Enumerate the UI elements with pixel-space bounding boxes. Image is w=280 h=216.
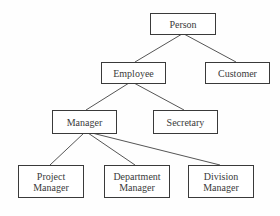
node-secretary: Secretary bbox=[153, 110, 218, 134]
node-manager-label: Manager bbox=[67, 117, 103, 128]
node-employee-label: Employee bbox=[113, 68, 154, 79]
edge-employee-secretary bbox=[134, 83, 184, 110]
node-secretary-label: Secretary bbox=[167, 117, 205, 128]
node-department-manager-label-line2: Manager bbox=[119, 182, 155, 193]
edge-person-employee bbox=[135, 34, 182, 62]
node-department-manager: Department Manager bbox=[104, 165, 170, 198]
node-division-manager-label-line2: Manager bbox=[203, 182, 239, 193]
node-customer: Customer bbox=[205, 62, 270, 84]
node-project-manager: Project Manager bbox=[18, 165, 84, 198]
node-project-manager-label-line2: Manager bbox=[33, 182, 69, 193]
node-department-manager-label-line1: Department bbox=[113, 171, 160, 182]
node-manager: Manager bbox=[52, 110, 117, 134]
node-employee: Employee bbox=[101, 62, 166, 84]
edge-person-customer bbox=[184, 34, 236, 62]
node-customer-label: Customer bbox=[218, 68, 257, 79]
node-division-manager: Division Manager bbox=[188, 165, 254, 198]
node-person-label: Person bbox=[169, 19, 196, 30]
node-division-manager-label-line1: Division bbox=[204, 171, 238, 182]
node-project-manager-label-line1: Project bbox=[37, 171, 65, 182]
edge-employee-manager bbox=[86, 83, 129, 110]
edge-manager-project-manager bbox=[50, 133, 84, 165]
node-person: Person bbox=[150, 13, 216, 35]
class-hierarchy-diagram: Person Employee Customer Manager Secreta… bbox=[0, 0, 280, 216]
